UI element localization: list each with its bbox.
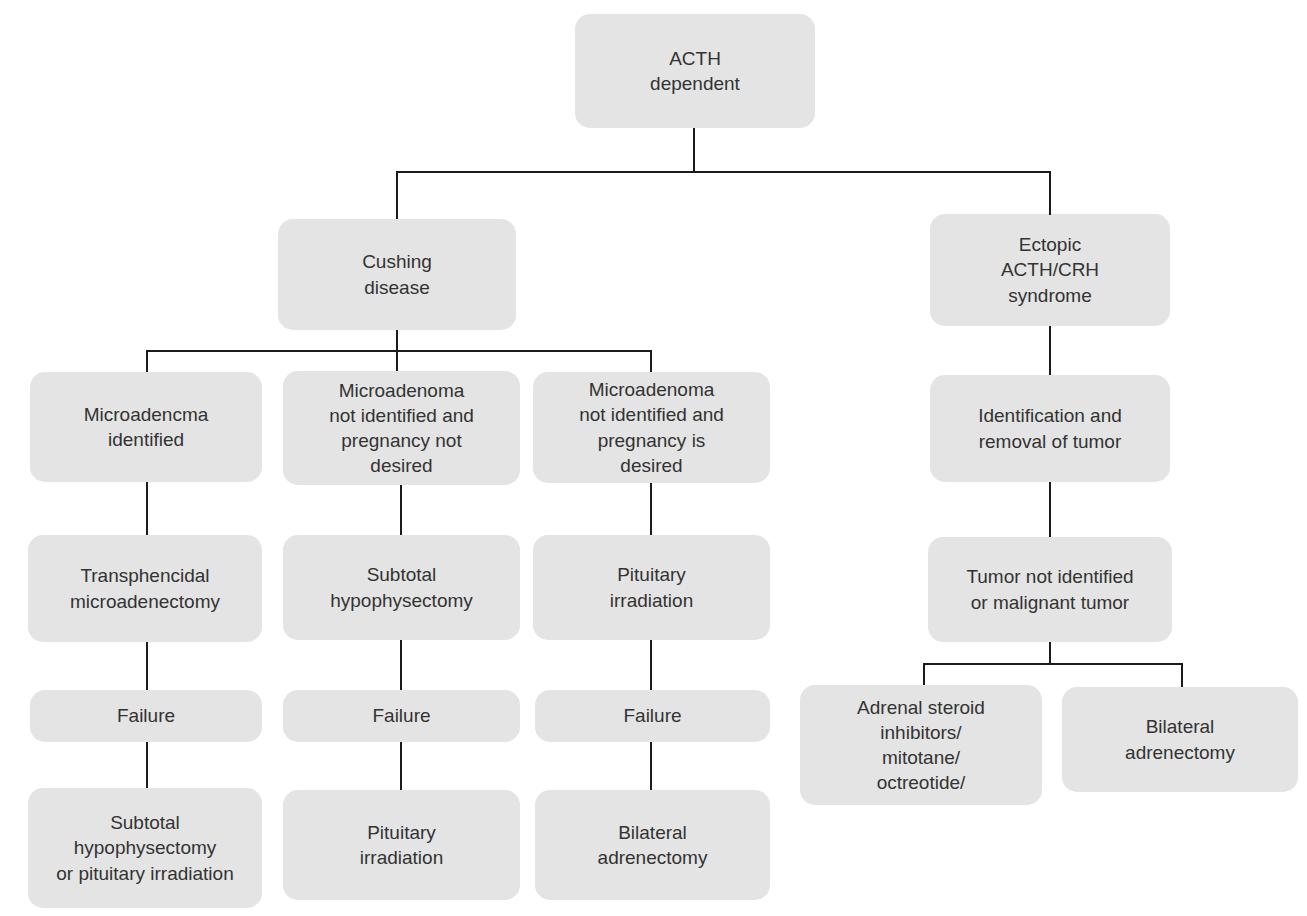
node-ectopic-acth-crh-syndrome: Ectopic ACTH/CRH syndrome <box>930 214 1170 326</box>
node-cushing-disease: Cushing disease <box>278 219 516 330</box>
connector-col1-b <box>146 642 148 690</box>
node-acth-dependent: ACTH dependent <box>575 14 815 128</box>
node-pituitary-irradiation-final: Pituitary irradiation <box>283 790 520 900</box>
connector-to-col2 <box>396 350 398 371</box>
node-microadenoma-not-identified-pregnancy-is-desired: Microadenoma not identified and pregnanc… <box>533 372 770 483</box>
connector-tumor-branch <box>923 663 1183 665</box>
connector-col3-c <box>650 742 652 790</box>
connector-to-col1 <box>146 350 148 372</box>
node-failure-3: Failure <box>535 690 770 742</box>
connector-col3-a <box>650 483 652 535</box>
connector-col1-c <box>146 742 148 788</box>
connector-ectopic-b <box>1049 482 1051 537</box>
connector-tumor-stem <box>1049 642 1051 663</box>
connector-acth-stem <box>693 128 695 171</box>
node-subtotal-hypophysectomy: Subtotal hypophysectomy <box>283 535 520 640</box>
connector-col2-c <box>400 742 402 790</box>
node-bilateral-adrenectomy-right: Bilateral adrenectomy <box>1062 687 1298 792</box>
connector-col2-b <box>400 640 402 690</box>
node-microadenoma-not-identified-pregnancy-not-desired: Microadenoma not identified and pregnanc… <box>283 371 520 485</box>
node-adrenal-steroid-inhibitors: Adrenal steroid inhibitors/ mitotane/ oc… <box>800 685 1042 805</box>
connector-to-col3 <box>650 350 652 372</box>
node-tumor-not-identified-or-malignant: Tumor not identified or malignant tumor <box>928 537 1172 642</box>
node-microadenoma-identified: Microadencma identified <box>30 372 262 482</box>
node-subtotal-hypophysectomy-or-pituitary-irradiation: Subtotal hypophysectomy or pituitary irr… <box>28 788 262 908</box>
node-identification-and-removal-of-tumor: Identification and removal of tumor <box>930 375 1170 482</box>
connector-cushing-branch <box>146 350 652 352</box>
connector-to-cushing <box>396 171 398 219</box>
node-pituitary-irradiation-step: Pituitary irradiation <box>533 535 770 640</box>
node-transsphenoidal-microadenectomy: Transphencidal microadenectomy <box>28 535 262 642</box>
connector-ectopic-a <box>1049 326 1051 375</box>
connector-col2-a <box>400 485 402 535</box>
node-bilateral-adrenectomy-final: Bilateral adrenectomy <box>535 790 770 900</box>
connector-col1-a <box>146 482 148 535</box>
connector-to-adrenal-steroid <box>923 663 925 685</box>
connector-to-ectopic <box>1049 171 1051 215</box>
node-failure-2: Failure <box>283 690 520 742</box>
connector-col3-b <box>650 640 652 690</box>
connector-to-bilateral-right <box>1181 663 1183 687</box>
connector-cushing-stem <box>396 330 398 350</box>
flowchart-acth-dependent: ACTH dependent Cushing disease Ectopic A… <box>0 0 1307 916</box>
connector-top-branch <box>396 171 1051 173</box>
node-failure-1: Failure <box>30 690 262 742</box>
